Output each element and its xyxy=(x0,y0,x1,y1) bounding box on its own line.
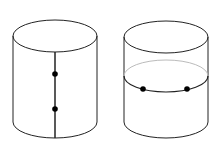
left-point-1 xyxy=(52,71,58,77)
right-point-2 xyxy=(184,86,190,92)
right-bottom-arc xyxy=(124,122,208,138)
right-top-ellipse xyxy=(124,21,208,53)
right-cylinder xyxy=(124,21,208,138)
right-point-1 xyxy=(140,86,146,92)
right-hidden-circle-back xyxy=(124,60,208,76)
left-point-2 xyxy=(52,106,58,112)
left-top-ellipse xyxy=(13,20,97,52)
right-circle-path-front xyxy=(124,76,208,92)
diagram-canvas xyxy=(0,0,218,149)
left-cylinder xyxy=(13,20,97,138)
